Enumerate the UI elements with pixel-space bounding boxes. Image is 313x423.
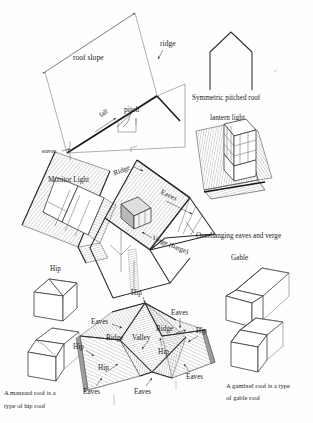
hip-box-front-wall xyxy=(34,292,63,321)
label-roof-slope: roof slope xyxy=(73,53,104,62)
diagram-canvas: fall pitch roof slope ridge eaves Symmet… xyxy=(0,0,313,423)
label-hipcx-eaves-right: Eaves xyxy=(186,373,203,381)
label-symmetric-pitched-roof: Symmetric pitched roof xyxy=(192,94,261,102)
label-gambrel-caption-line2: of gable roof xyxy=(226,394,261,401)
label-hip-left-upper: Hip xyxy=(50,265,61,273)
label-mansard-caption-line2: type of hip roof xyxy=(4,402,46,409)
label-pitch: pitch xyxy=(124,105,139,114)
label-monitor-light: Monitor Light xyxy=(48,176,89,184)
label-hipcx-eaves-upper-right: Eaves xyxy=(171,309,188,317)
label-ridge-top: ridge xyxy=(160,39,176,48)
label-mansard-caption-line1: A mansard roof is a xyxy=(4,389,56,396)
label-overhanging-eaves-and-verge: Overhanging eaves and verge xyxy=(196,232,281,240)
roof-terminology-diagram: fall pitch roof slope ridge eaves Symmet… xyxy=(0,0,313,423)
label-hipcx-eaves-bottom-left: Eaves xyxy=(83,388,100,396)
label-gambrel-caption-line1: A gambrel roof is a type xyxy=(226,382,290,389)
label-hipcx-hip-left: Hip xyxy=(73,343,84,351)
label-hipcx-eaves-left: Eaves xyxy=(91,318,108,326)
label-hipcx-eaves-bottom-centre: Eaves xyxy=(134,388,151,396)
label-hipcx-valley: Valley xyxy=(132,334,151,342)
label-hipcx-hip-centre: Hip xyxy=(158,348,169,356)
label-gable: Gable xyxy=(231,254,248,262)
mansard-front-wall xyxy=(28,352,56,381)
label-hipcx-ridge-left: Ridge xyxy=(106,334,123,342)
label-hipcx-hip-top: Hip xyxy=(131,289,142,297)
label-hipcx-hip-lower-left: Hip xyxy=(98,364,109,372)
label-hipcx-ridge-centre: Ridge xyxy=(156,325,173,333)
label-hipcx-hip-right: Hip xyxy=(196,327,207,335)
